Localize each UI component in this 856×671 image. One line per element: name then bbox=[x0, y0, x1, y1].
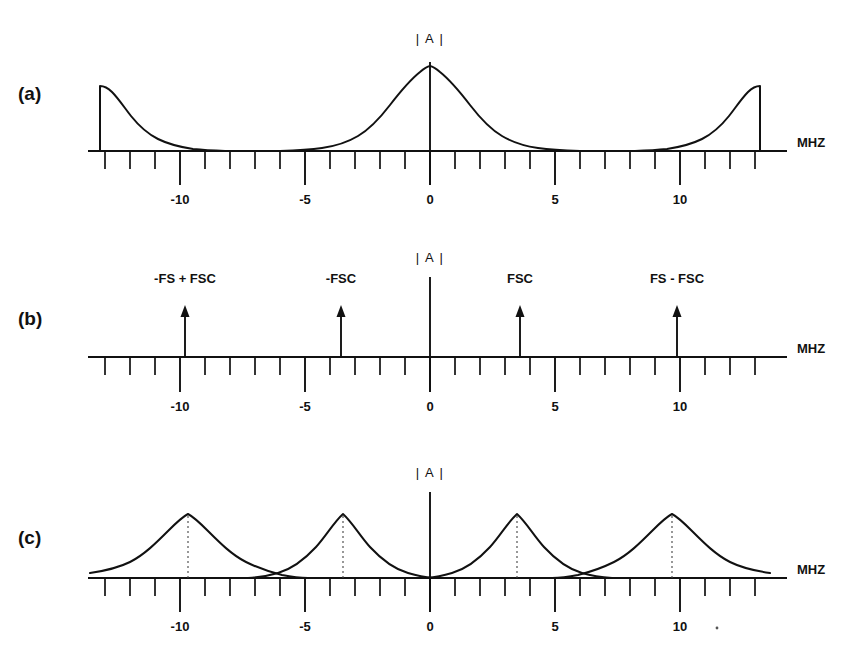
panel-c-tick-labels: -10 -5 0 5 10 bbox=[171, 619, 688, 634]
tick-label: 0 bbox=[426, 192, 433, 207]
impulse-label: -FS + FSC bbox=[154, 271, 216, 286]
impulse-label: -FSC bbox=[326, 271, 357, 286]
arrow-up-icon bbox=[181, 305, 190, 317]
panel-a-right-lobe bbox=[635, 86, 760, 151]
arrow-up-icon bbox=[337, 305, 346, 317]
tick-label: 5 bbox=[551, 619, 558, 634]
tick-label: -10 bbox=[171, 619, 190, 634]
scan-speck bbox=[716, 627, 719, 630]
tick-label: -5 bbox=[299, 192, 311, 207]
figure-canvas: (a) | A | MHZ bbox=[0, 0, 856, 671]
impulse-fs-plus-fsc: -FS + FSC bbox=[154, 271, 216, 357]
tick-label: 10 bbox=[673, 192, 687, 207]
spectrum-figure: (a) | A | MHZ bbox=[0, 0, 856, 671]
tick-label: 0 bbox=[426, 619, 433, 634]
panel-b: (b) | A | MHZ bbox=[18, 250, 825, 414]
panel-c-lobe-3 bbox=[427, 514, 612, 578]
tick-label: 0 bbox=[426, 399, 433, 414]
tick-label: -10 bbox=[171, 192, 190, 207]
panel-a-tag: (a) bbox=[18, 83, 41, 104]
impulse-minus-fsc: -FSC bbox=[326, 271, 357, 357]
panel-a-tick-labels: -10 -5 0 5 10 bbox=[171, 192, 688, 207]
panel-a-left-lobe bbox=[100, 86, 225, 151]
panel-c-lobe-2 bbox=[248, 514, 433, 578]
panel-a: (a) | A | MHZ bbox=[18, 31, 825, 207]
panel-c-axis-unit: MHZ bbox=[797, 562, 825, 577]
tick-label: -5 bbox=[299, 399, 311, 414]
tick-label: 5 bbox=[551, 399, 558, 414]
panel-b-axis-unit: MHZ bbox=[797, 341, 825, 356]
impulse-fs-minus-fsc: FS - FSC bbox=[650, 271, 705, 357]
panel-b-tag: (b) bbox=[18, 308, 42, 329]
panel-c: (c) | A | MHZ bbox=[18, 465, 825, 634]
panel-a-amplitude-label: | A | bbox=[416, 31, 445, 46]
tick-label: -5 bbox=[299, 619, 311, 634]
arrow-up-icon bbox=[673, 305, 682, 317]
panel-a-axis-unit: MHZ bbox=[797, 135, 825, 150]
panel-c-amplitude-label: | A | bbox=[416, 465, 445, 480]
impulse-label: FSC bbox=[507, 271, 534, 286]
tick-label: 5 bbox=[551, 192, 558, 207]
impulse-fsc: FSC bbox=[507, 271, 534, 357]
panel-c-lobe-4 bbox=[552, 514, 770, 578]
panel-c-tag: (c) bbox=[18, 527, 41, 548]
panel-b-amplitude-label: | A | bbox=[416, 250, 445, 265]
arrow-up-icon bbox=[516, 305, 525, 317]
tick-label: -10 bbox=[171, 399, 190, 414]
panel-b-tick-labels: -10 -5 0 5 10 bbox=[171, 399, 688, 414]
panel-c-lobe-1 bbox=[90, 514, 308, 578]
impulse-label: FS - FSC bbox=[650, 271, 705, 286]
tick-label: 10 bbox=[673, 399, 687, 414]
tick-label: 10 bbox=[673, 619, 687, 634]
